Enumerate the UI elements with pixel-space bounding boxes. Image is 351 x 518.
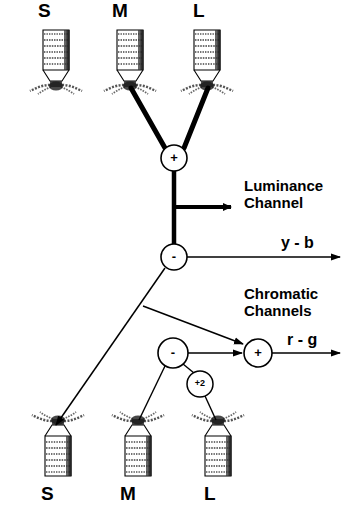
gain-node-plus-two-symbol: +2 <box>190 378 210 388</box>
edge-diff-to-sum-rg <box>143 306 243 344</box>
cone-label-s-top: S <box>38 1 51 21</box>
edge-chromatic-diff-to-m-cone <box>139 366 165 420</box>
yellow-blue-output-label: y - b <box>281 234 314 252</box>
edge-chromatic-diff-to-gain <box>183 364 194 373</box>
cone-label-m-bottom: M <box>120 484 136 504</box>
cone-label-m-top: M <box>112 1 128 21</box>
sum-node-luminance-symbol: + <box>164 150 184 165</box>
cone-label-l-top: L <box>193 1 205 21</box>
edge-l-cone-to-sum <box>184 88 208 148</box>
cone-label-s-bottom: S <box>41 484 54 504</box>
cone-label-l-bottom: L <box>204 484 216 504</box>
cone-l-top <box>181 30 233 94</box>
cone-l-bottom <box>192 412 244 476</box>
retinal-opponency-diagram: S M L S M L + - - +2 + Luminance Channel… <box>0 0 351 518</box>
red-green-output-label: r - g <box>287 331 317 349</box>
edge-m-cone-to-sum <box>131 88 165 148</box>
sum-node-red-green-symbol: + <box>248 345 268 360</box>
chromatic-channels-label: Chromatic Channels <box>244 285 318 320</box>
cone-m-bottom <box>112 412 164 476</box>
diff-node-yellow-blue-symbol: - <box>164 249 184 264</box>
cone-m-top <box>104 30 156 94</box>
diff-node-chromatic-symbol: - <box>163 345 183 360</box>
cone-s-top <box>30 30 82 94</box>
luminance-channel-label: Luminance Channel <box>244 177 323 212</box>
